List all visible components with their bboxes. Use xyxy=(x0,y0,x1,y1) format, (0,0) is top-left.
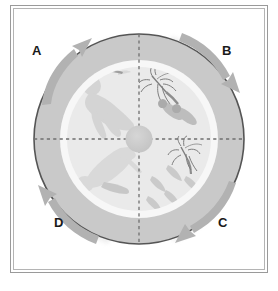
cycle-label-a: A xyxy=(32,44,41,57)
cycle-label-b: B xyxy=(222,44,231,57)
cycle-diagram xyxy=(0,0,278,291)
figure-canvas: A B C D xyxy=(0,0,278,291)
center-hub xyxy=(126,126,153,153)
cycle-label-d: D xyxy=(54,216,63,229)
cycle-label-c: C xyxy=(218,216,227,229)
